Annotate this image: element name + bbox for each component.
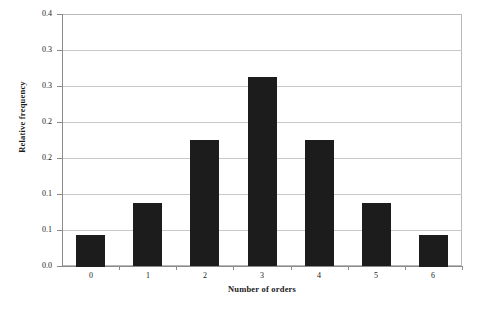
y-axis-tick-mark — [57, 266, 62, 267]
x-axis-tick-label: 3 — [242, 272, 282, 280]
x-axis-tick-label: 1 — [128, 272, 168, 280]
y-axis-title: Relative frequency — [17, 47, 27, 187]
y-axis-tick-label: 0.1 — [12, 190, 52, 198]
y-axis-tick-mark — [57, 14, 62, 15]
bar — [419, 235, 448, 267]
bar — [76, 235, 105, 267]
y-axis-tick-mark — [57, 50, 62, 51]
y-axis-line — [62, 14, 63, 267]
x-axis-tick-label: 4 — [299, 272, 339, 280]
bar — [190, 140, 219, 266]
gridline — [62, 50, 462, 51]
x-axis-tick-label: 6 — [413, 272, 453, 280]
x-axis-tick-mark — [233, 266, 234, 270]
y-axis-tick-mark — [57, 158, 62, 159]
x-axis-title: Number of orders — [62, 284, 462, 294]
x-axis-line — [62, 266, 463, 267]
x-axis-tick-mark — [405, 266, 406, 270]
x-axis-tick-label: 2 — [185, 272, 225, 280]
y-axis-tick-label: 0.1 — [12, 226, 52, 234]
x-axis-tick-mark — [462, 266, 463, 270]
x-axis-tick-mark — [176, 266, 177, 270]
x-axis-tick-mark — [119, 266, 120, 270]
bar — [248, 77, 277, 266]
relative-frequency-bar-chart: 0.40.30.30.20.20.10.10.0 0123456 Relativ… — [0, 0, 481, 311]
bar — [133, 203, 162, 266]
y-axis-tick-mark — [57, 122, 62, 123]
y-axis-tick-label: 0.4 — [12, 10, 52, 18]
y-axis-tick-label: 0.0 — [12, 262, 52, 270]
x-axis-tick-mark — [348, 266, 349, 270]
x-axis-tick-mark — [291, 266, 292, 270]
bar — [305, 140, 334, 266]
bar — [362, 203, 391, 266]
y-axis-tick-mark — [57, 86, 62, 87]
x-axis-tick-label: 5 — [356, 272, 396, 280]
y-axis-tick-mark — [57, 194, 62, 195]
y-axis-tick-mark — [57, 230, 62, 231]
x-axis-tick-label: 0 — [71, 272, 111, 280]
